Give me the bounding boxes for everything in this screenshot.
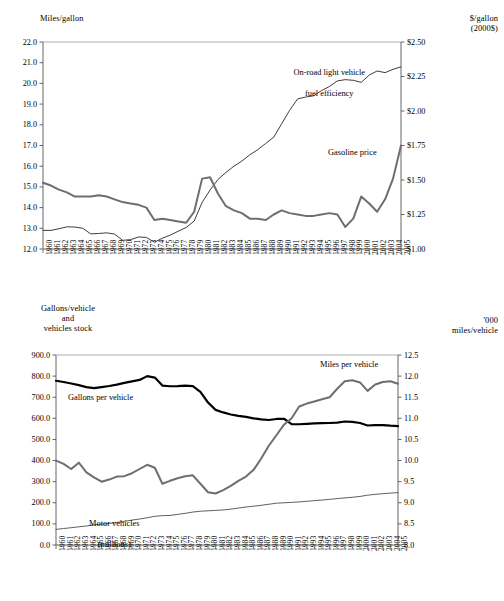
annotation-gasoline-price: Gasoline price bbox=[328, 148, 377, 159]
annotation-fuel-efficiency: On-road light vehicle fuel efficiency bbox=[268, 57, 378, 110]
annotation-miles-per-vehicle: Miles per vehicle bbox=[320, 360, 378, 371]
chart-panel-top: Miles/gallon $/gallon (2000$) 22.021.020… bbox=[0, 0, 504, 300]
annotation-motor-vehicles-line2: (millions) bbox=[98, 540, 131, 549]
annotation-gallons-per-vehicle: Gallons per vehicle bbox=[68, 393, 133, 404]
top-plot-canvas bbox=[0, 0, 504, 300]
annotation-fuel-efficiency-line1: On-road light vehicle bbox=[293, 68, 365, 77]
figure-two-panel-fuel-charts: Miles/gallon $/gallon (2000$) 22.021.020… bbox=[0, 0, 504, 601]
annotation-motor-vehicles-line1: Motor vehicles bbox=[89, 519, 139, 528]
annotation-motor-vehicles: Motor vehicles (millions) bbox=[60, 508, 156, 561]
annotation-fuel-efficiency-line2: fuel efficiency bbox=[305, 89, 353, 98]
chart-panel-bottom: Gallons/vehicle and vehicles stock '000 … bbox=[0, 300, 504, 601]
